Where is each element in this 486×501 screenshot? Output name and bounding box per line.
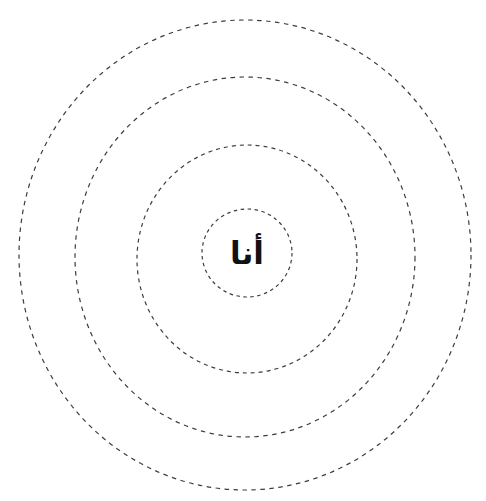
center-label-ana: أنا: [230, 233, 264, 271]
diagram-canvas: أنا: [0, 0, 486, 501]
concentric-circles-diagram: أنا: [0, 0, 486, 501]
